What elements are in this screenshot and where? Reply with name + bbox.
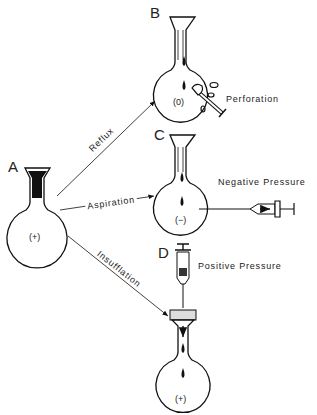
syringe-icon bbox=[175, 244, 191, 250]
diagram-canvas: A (+) B (0) Perforation C (−) bbox=[0, 0, 317, 415]
flask-a-sign: (+) bbox=[29, 232, 40, 242]
flask-b: B (0) Perforation bbox=[150, 4, 279, 122]
fragment-icon bbox=[210, 83, 218, 88]
flask-a: A (+) bbox=[7, 158, 67, 268]
label-reflux: Reflux bbox=[87, 125, 116, 153]
label-insufflation: Insufflation bbox=[95, 249, 143, 289]
annotation-negative-pressure: Negative Pressure bbox=[218, 177, 306, 187]
flask-c: C (−) Negative Pressure bbox=[154, 126, 306, 235]
fragment-icon bbox=[208, 93, 214, 97]
panel-label-c: C bbox=[154, 126, 165, 143]
arrow-reflux: Reflux bbox=[57, 101, 155, 196]
flask-d: D Positive Pressure (+) bbox=[156, 244, 282, 412]
panel-label-d: D bbox=[158, 244, 169, 261]
panel-label-a: A bbox=[8, 158, 18, 175]
flask-b-sign: (0) bbox=[173, 97, 184, 107]
stopper bbox=[170, 310, 196, 320]
flask-c-sign: (−) bbox=[175, 215, 186, 225]
panel-label-b: B bbox=[150, 4, 160, 21]
arrow-aspiration: Aspiration bbox=[60, 192, 154, 211]
annotation-perforation: Perforation bbox=[226, 94, 279, 104]
annotation-positive-pressure: Positive Pressure bbox=[198, 261, 282, 271]
label-aspiration: Aspiration bbox=[87, 195, 136, 212]
flask-d-sign: (+) bbox=[175, 394, 186, 404]
arrow-insufflation: Insufflation bbox=[68, 236, 168, 316]
